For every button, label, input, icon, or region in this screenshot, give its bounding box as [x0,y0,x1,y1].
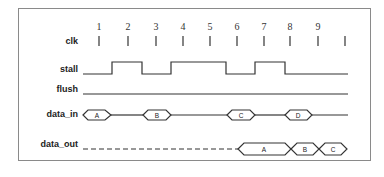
svg-text:1: 1 [97,21,102,32]
svg-text:7: 7 [262,21,267,32]
clk-ticks [99,36,345,46]
svg-text:2: 2 [126,21,131,32]
svg-text:B: B [303,146,307,153]
svg-text:A: A [262,146,267,153]
svg-text:5: 5 [208,21,213,32]
clk-cycle-numbers: 1 2 3 4 5 6 7 8 9 [97,21,321,32]
svg-text:D: D [296,112,301,119]
stall-waveform [83,62,348,74]
svg-text:9: 9 [316,21,321,32]
svg-text:C: C [331,146,336,153]
timing-waveforms: 1 2 3 4 5 6 7 8 9 A B C D A B C [0,0,384,177]
svg-text:A: A [95,112,100,119]
data-in-waveform [83,110,348,120]
svg-text:6: 6 [235,21,240,32]
svg-text:8: 8 [288,21,293,32]
data-out-waveform [83,143,347,155]
svg-text:3: 3 [154,21,159,32]
data-out-labels: A B C [262,146,336,153]
svg-text:4: 4 [181,21,186,32]
svg-text:B: B [155,112,159,119]
svg-text:C: C [239,112,244,119]
